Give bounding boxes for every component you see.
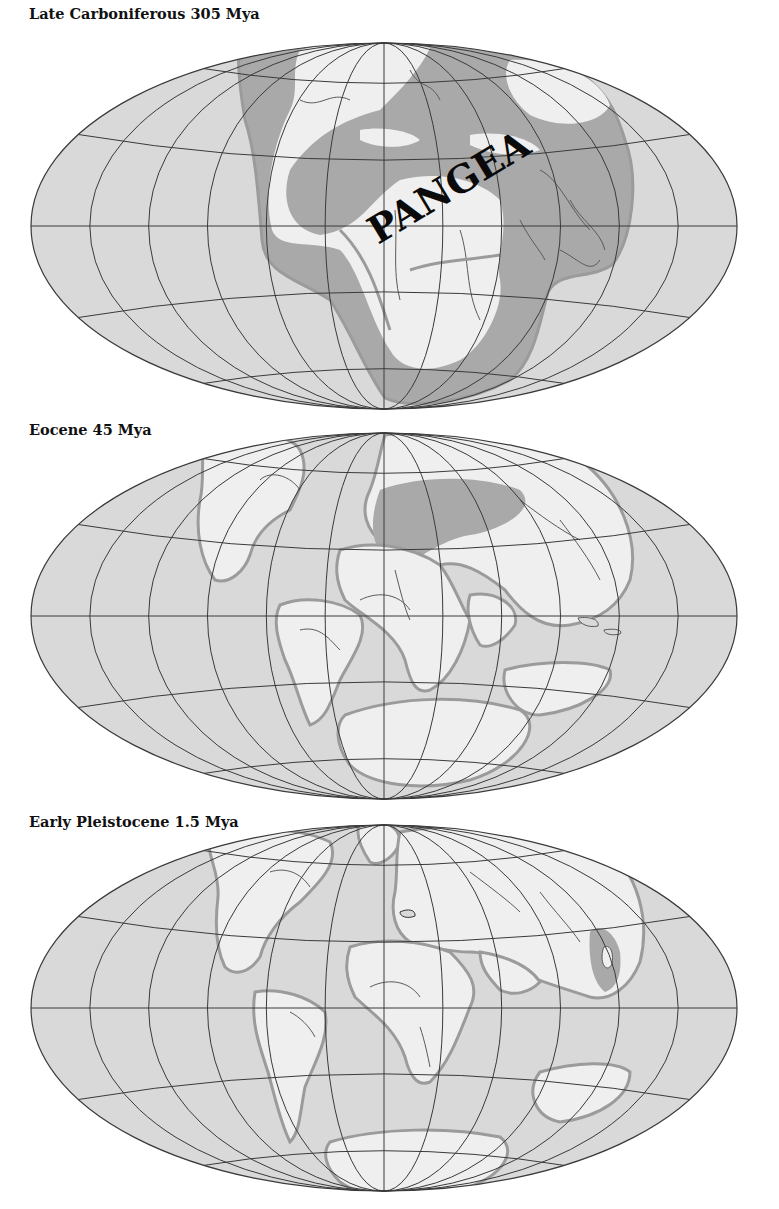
map-carboniferous: PANGEA: [0, 30, 779, 422]
map-pleistocene: [0, 812, 779, 1204]
map-title-carboniferous: Late Carboniferous 305 Mya: [29, 5, 260, 22]
map-eocene: [0, 420, 779, 812]
